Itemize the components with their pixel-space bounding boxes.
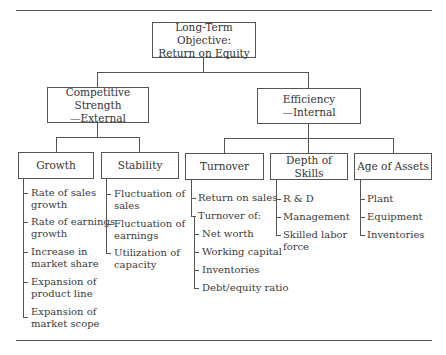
- node-competitive-strength: Competitive Strength —External: [47, 87, 149, 123]
- connector: [308, 124, 309, 138]
- bracket-line: [106, 179, 107, 254]
- connector: [224, 138, 225, 153]
- tick: [194, 252, 199, 253]
- list-item: Expansion ofproduct line: [31, 276, 96, 300]
- tick: [276, 235, 281, 236]
- list-item: Management: [283, 211, 350, 223]
- connector: [308, 138, 309, 153]
- connector: [97, 72, 309, 73]
- list-item: Equipment: [367, 211, 423, 223]
- list-item: Return on sales: [198, 192, 277, 204]
- node-line1: Competitive Strength: [48, 86, 148, 112]
- connector: [56, 137, 57, 152]
- node-age-of-assets: Age of Assets: [354, 153, 432, 180]
- node-depth-of-skills: Depth of Skills: [270, 153, 348, 180]
- list-item: Rate of earningsgrowth: [31, 216, 115, 240]
- node-label: Age of Assets: [357, 160, 429, 173]
- list-item: Debt/equity ratio: [202, 282, 289, 294]
- tick: [194, 234, 199, 235]
- node-line1: Efficiency: [282, 93, 335, 106]
- tick: [276, 199, 281, 200]
- connector: [97, 123, 98, 137]
- list-item: Fluctuation ofearnings: [114, 218, 185, 242]
- node-growth: Growth: [18, 152, 94, 179]
- tick: [23, 252, 28, 253]
- tick: [23, 317, 28, 318]
- tick: [360, 217, 365, 218]
- list-item: Rate of salesgrowth: [31, 187, 96, 211]
- list-item: Utilization ofcapacity: [114, 247, 180, 271]
- tick: [194, 270, 199, 271]
- node-label: Growth: [36, 159, 76, 172]
- node-label: Stability: [118, 159, 163, 172]
- node-label: Depth of Skills: [271, 154, 347, 180]
- bracket-line: [23, 179, 24, 318]
- bottom-rule: [16, 340, 432, 341]
- root-node-return-on-equity: Long-Term Objective: Return on Equity: [152, 22, 256, 58]
- list-item: Turnover of:: [198, 210, 261, 222]
- tick: [106, 224, 111, 225]
- tick: [106, 253, 111, 254]
- list-item: Inventories: [202, 264, 259, 276]
- node-stability: Stability: [101, 152, 179, 179]
- list-item: Increase inmarket share: [31, 246, 99, 270]
- node-efficiency: Efficiency —Internal: [257, 88, 361, 124]
- connector: [203, 58, 204, 72]
- tick: [23, 222, 28, 223]
- tick: [23, 193, 28, 194]
- tick: [360, 235, 365, 236]
- list-item: Net worth: [202, 228, 254, 240]
- list-item: R & D: [283, 193, 314, 205]
- connector: [139, 137, 140, 152]
- tick: [194, 288, 199, 289]
- list-item: Skilled laborforce: [283, 229, 347, 253]
- node-turnover: Turnover: [185, 153, 264, 180]
- tick: [360, 199, 365, 200]
- list-item: Inventories: [367, 229, 424, 241]
- tick: [191, 198, 196, 199]
- list-item: Expansion ofmarket scope: [31, 306, 99, 330]
- tick: [276, 217, 281, 218]
- node-line2: —Internal: [282, 106, 335, 119]
- tick: [106, 194, 111, 195]
- tick: [23, 282, 28, 283]
- root-line1: Long-Term Objective:: [153, 21, 255, 47]
- top-rule: [16, 10, 432, 11]
- list-item: Plant: [367, 193, 393, 205]
- list-item: Fluctuation ofsales: [114, 188, 185, 212]
- connector: [56, 137, 140, 138]
- connector: [308, 72, 309, 88]
- node-label: Turnover: [200, 160, 249, 173]
- connector: [393, 138, 394, 153]
- node-line2: —External: [48, 112, 148, 125]
- bracket-line: [276, 180, 277, 235]
- bracket-line: [360, 180, 361, 235]
- connector: [224, 138, 394, 139]
- root-line2: Return on Equity: [153, 47, 255, 60]
- list-item: Working capital: [202, 246, 282, 258]
